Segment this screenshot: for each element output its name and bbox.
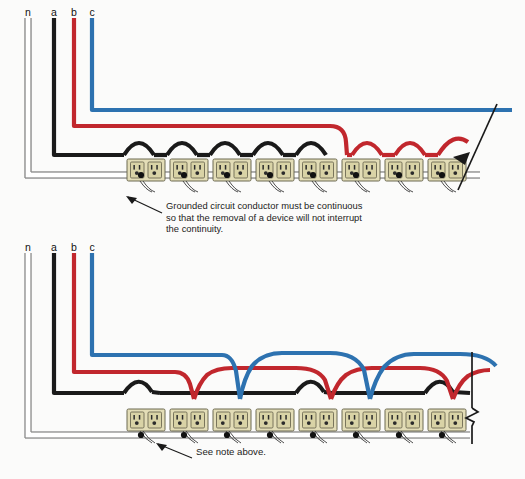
receptacle[interactable] (170, 409, 208, 431)
top-label-n: n (21, 6, 35, 18)
bottom-label-b: b (67, 241, 81, 253)
diagram-canvas: n a b c n a b c Grounded circuit conduct… (0, 0, 525, 479)
top-label-a: a (47, 6, 61, 18)
receptacle[interactable] (342, 409, 380, 431)
receptacle[interactable] (299, 409, 337, 431)
receptacle[interactable] (256, 409, 294, 431)
receptacle[interactable] (127, 409, 165, 431)
top-diagram (25, 18, 512, 213)
bottom-label-n: n (21, 241, 35, 253)
receptacle[interactable] (299, 159, 337, 181)
top-phase-b-conductor (74, 18, 468, 155)
receptacle[interactable] (385, 159, 423, 181)
bottom-phase-b-conductor (74, 253, 490, 399)
bottom-phase-c-conductor (92, 253, 496, 399)
top-phase-a-conductor (54, 18, 326, 155)
receptacle[interactable] (428, 409, 466, 431)
receptacle[interactable] (213, 409, 251, 431)
bottom-label-a: a (47, 241, 61, 253)
bottom-diagram-note: See note above. (196, 446, 266, 458)
bottom-break-symbol (466, 352, 478, 444)
receptacle[interactable] (256, 159, 294, 181)
top-note-leader (126, 196, 162, 213)
wiring-diagram-svg (0, 0, 525, 479)
bottom-note-leader (156, 443, 192, 458)
receptacle[interactable] (127, 159, 165, 181)
receptacle[interactable] (428, 159, 466, 181)
receptacle[interactable] (170, 159, 208, 181)
top-label-c: c (85, 6, 99, 18)
receptacle[interactable] (385, 409, 423, 431)
top-diagram-note: Grounded circuit conductor must be conti… (166, 200, 362, 235)
top-phase-c-conductor (92, 18, 512, 110)
receptacle[interactable] (342, 159, 380, 181)
bottom-diagram (25, 253, 496, 458)
receptacle[interactable] (213, 159, 251, 181)
bottom-label-c: c (85, 241, 99, 253)
top-label-b: b (67, 6, 81, 18)
